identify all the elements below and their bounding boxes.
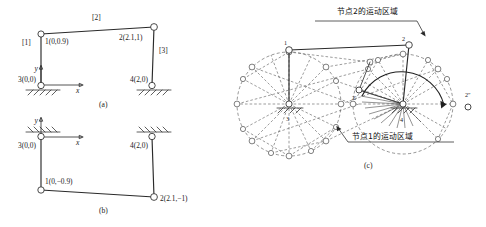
panel-c-label-2-prime: 2′: [352, 94, 357, 101]
panel-a-member-2-label: [2]: [92, 13, 101, 22]
panel-c-caption: (c): [364, 161, 373, 170]
panel-c-label-2: 2: [402, 35, 405, 42]
panel-a-member-1-label: [1]: [22, 38, 31, 47]
panel-b-node-4-label: 4(2,0): [130, 141, 148, 150]
panel-c-label-3: 3: [286, 115, 289, 122]
panel-c-joint-2: [406, 42, 413, 49]
panel-b-node-2-label: 2(2.1,−1): [160, 194, 188, 203]
panel-a-node-3-label: 3(0,0): [18, 75, 36, 84]
panel-b-axis-x-label: x: [75, 138, 80, 147]
panel-a-axis-x-label: x: [75, 86, 80, 95]
panel-b-joint-4: [149, 133, 155, 139]
panel-a-caption: (a): [99, 100, 108, 109]
panel-c-joint-4: [400, 101, 406, 107]
panel-b-node-1-label: 1(0,−0.9): [45, 177, 73, 186]
panel-a-joint-3: [38, 82, 44, 88]
panel-c-joint-1: [286, 47, 293, 54]
panel-b-joint-1: [38, 187, 44, 193]
panel-a-joint-2: [151, 24, 158, 31]
panel-a-joint-1: [38, 31, 44, 37]
figure-canvas: y x 1(0,0.9) 2(2.1,1) 3(0,0): [0, 0, 486, 227]
panel-a-node-2-label: 2(2.1,1): [119, 33, 143, 42]
panel-b-axis-y-label: y: [34, 116, 39, 125]
panel-c-joint-2-dprime: [465, 104, 471, 110]
panel-a-axis-y-label: y: [34, 64, 39, 73]
panel-a-node-4-label: 4(2,0): [130, 75, 148, 84]
panel-c-label-1: 1: [284, 39, 287, 46]
panel-b-joint-3: [38, 133, 44, 139]
panel-a-joint-4: [149, 82, 155, 88]
panel-a-member-3-label: [3]: [159, 46, 168, 55]
panel-a-node-1-label: 1(0,0.9): [45, 37, 69, 46]
panel-c-label-4: 4: [400, 116, 403, 123]
panel-c-joint-2-prime: [356, 87, 362, 93]
panel-b-joint-2: [151, 194, 158, 201]
panel-b-caption: (b): [99, 206, 108, 215]
panel-b-node-3-label: 3(0,0): [18, 141, 36, 150]
panel-c-joint-3: [286, 101, 292, 107]
panel-c-annotation-node1-text: 节点1的运动区域: [352, 131, 413, 141]
panel-c-annotation-node2-text: 节点2的运动区域: [337, 6, 398, 16]
background: [0, 0, 486, 227]
panel-c-label-2-dprime: 2″: [465, 91, 471, 98]
figure-root: y x 1(0,0.9) 2(2.1,1) 3(0,0): [0, 0, 486, 227]
